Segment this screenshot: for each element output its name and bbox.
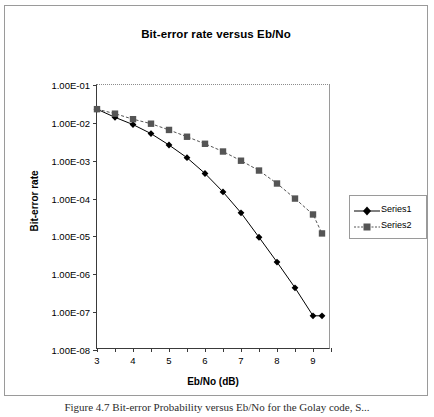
x-tick-label: 5 [166, 355, 171, 366]
figure-container: Bit-error rate versus Eb/No Bit-error ra… [0, 0, 434, 417]
x-tick-mark [205, 348, 206, 352]
data-point-marker [292, 195, 298, 201]
x-tick-label: 6 [202, 355, 207, 366]
y-tick-mark [93, 274, 97, 275]
data-point-marker [256, 167, 262, 173]
data-point-marker [238, 158, 244, 164]
plot-area: 1.00E-011.00E-021.00E-031.00E-041.00E-05… [96, 84, 330, 349]
y-tick-label: 1.00E-03 [51, 155, 97, 166]
data-point-marker [310, 312, 317, 319]
y-tick-label: 1.00E-02 [51, 117, 97, 128]
series-series2 [94, 106, 325, 237]
y-tick-label: 1.00E-08 [51, 345, 97, 356]
x-tick-mark [187, 348, 188, 352]
y-tick-label: 1.00E-01 [51, 80, 97, 91]
data-point-marker [166, 142, 173, 149]
data-point-marker [94, 106, 100, 112]
y-tick-label: 1.00E-06 [51, 269, 97, 280]
x-tick-label: 7 [238, 355, 243, 366]
data-point-marker [148, 130, 155, 137]
x-tick-mark [277, 348, 278, 352]
data-point-marker [166, 127, 172, 133]
x-tick-mark [97, 348, 98, 352]
chart-frame: Bit-error rate versus Eb/No Bit-error ra… [4, 5, 428, 396]
series-series1 [94, 106, 326, 319]
data-point-marker [256, 234, 263, 241]
data-point-marker [130, 116, 136, 122]
x-tick-mark [115, 348, 116, 352]
legend-item-series2: Series2 [353, 217, 422, 233]
x-tick-mark [133, 348, 134, 352]
legend-label-series2: Series2 [381, 220, 412, 230]
x-tick-mark [331, 348, 332, 352]
y-axis-title: Bit-error rate [29, 170, 40, 231]
legend-key-square-icon [353, 219, 381, 231]
y-tick-mark [93, 236, 97, 237]
x-tick-mark [259, 348, 260, 352]
data-point-marker [319, 312, 326, 319]
x-axis-title: Eb/No (dB) [96, 376, 330, 387]
y-tick-mark [93, 85, 97, 86]
x-tick-label: 8 [274, 355, 279, 366]
data-point-marker [274, 259, 281, 266]
data-point-marker [319, 230, 325, 236]
y-tick-mark [93, 123, 97, 124]
x-tick-mark [151, 348, 152, 352]
figure-caption: Figure 4.7 Bit-error Probability versus … [0, 401, 434, 413]
y-tick-mark [93, 199, 97, 200]
y-tick-mark [93, 312, 97, 313]
chart-title: Bit-error rate versus Eb/No [5, 28, 427, 40]
x-tick-mark [223, 348, 224, 352]
x-tick-label: 9 [310, 355, 315, 366]
x-tick-mark [241, 348, 242, 352]
data-point-marker [112, 110, 118, 116]
x-tick-mark [295, 348, 296, 352]
data-point-marker [310, 211, 316, 217]
y-tick-label: 1.00E-04 [51, 193, 97, 204]
legend-item-series1: Series1 [353, 201, 422, 217]
data-point-marker [202, 141, 208, 147]
data-point-marker [148, 121, 154, 127]
x-tick-mark [313, 348, 314, 352]
series-line [97, 109, 322, 233]
legend-key-diamond-icon [353, 203, 381, 215]
data-point-marker [274, 180, 280, 186]
data-point-marker [220, 148, 226, 154]
data-point-marker [292, 284, 299, 291]
series-line [97, 109, 322, 316]
y-tick-label: 1.00E-05 [51, 231, 97, 242]
legend-label-series1: Series1 [381, 204, 412, 214]
plot-svg [97, 85, 331, 350]
x-tick-mark [169, 348, 170, 352]
chart-legend: Series1 Series2 [349, 195, 427, 239]
y-tick-label: 1.00E-07 [51, 307, 97, 318]
data-point-marker [184, 134, 190, 140]
x-tick-label: 4 [130, 355, 135, 366]
y-tick-mark [93, 161, 97, 162]
x-tick-label: 3 [94, 355, 99, 366]
